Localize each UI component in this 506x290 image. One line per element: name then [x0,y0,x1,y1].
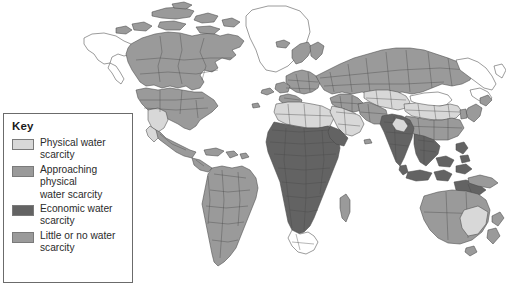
map-legend: Key Physical water scarcity Approaching … [3,113,133,283]
legend-item-approaching-physical-water-scarcity: Approaching physical water scarcity [12,164,126,201]
legend-label-physical-water-scarcity: Physical water scarcity [40,137,106,162]
legend-swatch-little-or-no-water-scarcity [12,232,34,243]
world-water-scarcity-map-page: .land { stroke: #4a4a4a; stroke-width: 0… [0,0,506,290]
legend-item-physical-water-scarcity: Physical water scarcity [12,137,126,162]
legend-title: Key [12,120,126,133]
legend-swatch-physical-water-scarcity [12,139,34,150]
legend-label-little-or-no-water-scarcity: Little or no water scarcity [40,230,115,255]
legend-swatch-economic-water-scarcity [12,205,34,216]
legend-item-little-or-no-water-scarcity: Little or no water scarcity [12,230,126,255]
legend-swatch-approaching-physical-water-scarcity [12,166,34,177]
legend-item-economic-water-scarcity: Economic water scarcity [12,203,126,228]
region-korea [460,109,467,119]
legend-label-approaching-physical-water-scarcity: Approaching physical water scarcity [40,164,102,201]
legend-label-economic-water-scarcity: Economic water scarcity [40,203,112,228]
